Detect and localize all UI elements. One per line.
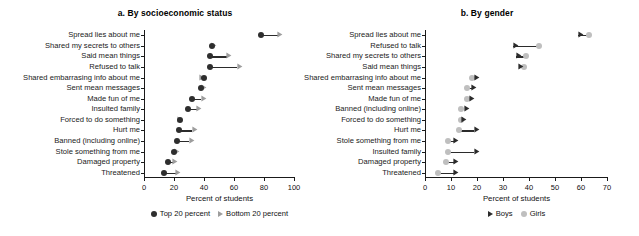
data-point-marker <box>454 159 459 165</box>
x-axis-tick-label: 10 <box>447 183 455 192</box>
y-axis-tick <box>422 35 425 36</box>
x-axis-tick <box>234 178 235 181</box>
legend-label-top-20-percent: Top 20 percent <box>160 209 210 218</box>
category-label: Stole something from me <box>56 148 140 156</box>
figure-root: a. By socioeconomic status Spread lies a… <box>0 0 639 236</box>
data-point-marker <box>226 53 231 59</box>
y-axis-tick <box>422 173 425 174</box>
category-label: Banned (including online) <box>335 105 421 113</box>
data-point-marker <box>461 116 466 122</box>
data-point-marker <box>237 63 242 69</box>
data-point-marker <box>445 138 451 144</box>
y-axis-tick <box>422 88 425 89</box>
x-axis-tick <box>477 178 478 181</box>
y-axis-tick <box>141 67 144 68</box>
x-axis-tick-label: 70 <box>603 183 611 192</box>
category-label: Said mean things <box>81 53 140 61</box>
category-label: Shared embarrasing info about me <box>23 74 140 82</box>
x-axis-tick <box>294 178 295 181</box>
y-axis-tick <box>141 88 144 89</box>
category-label: Insulted family <box>372 148 421 156</box>
legend-label-girls: Girls <box>530 209 546 218</box>
y-axis-tick <box>141 109 144 110</box>
x-axis-tick-label: 30 <box>499 183 507 192</box>
category-label: Forced to do something <box>341 116 421 124</box>
data-point-marker <box>185 106 191 112</box>
panel-b-category-labels: Spread lies about meRefused to talkShare… <box>300 30 421 178</box>
category-label: Sent mean messages <box>348 84 421 92</box>
legend-item-bottom-20-percent: Bottom 20 percent <box>218 209 288 218</box>
data-point-marker <box>472 85 477 91</box>
panel-a-x-axis <box>144 177 295 178</box>
x-axis-tick <box>144 178 145 181</box>
data-point-marker <box>196 106 201 112</box>
x-axis-tick-label: 80 <box>260 183 268 192</box>
x-axis-tick <box>425 178 426 181</box>
data-point-marker <box>474 127 479 133</box>
panel-a-legend: Top 20 percent Bottom 20 percent <box>144 209 295 218</box>
data-point-marker <box>198 85 204 91</box>
x-axis-tick-label: 0 <box>423 183 427 192</box>
data-point-marker <box>519 63 524 69</box>
data-point-marker <box>474 74 479 80</box>
y-axis-tick <box>422 152 425 153</box>
y-axis-tick <box>422 130 425 131</box>
data-point-marker <box>454 169 459 175</box>
y-axis-tick <box>141 162 144 163</box>
y-axis-tick <box>422 56 425 57</box>
panel-b-legend: Boys Girls <box>425 209 608 218</box>
data-point-marker <box>469 95 474 101</box>
y-axis-tick <box>422 162 425 163</box>
data-point-marker <box>443 159 449 165</box>
y-axis-tick <box>141 99 144 100</box>
category-label: Insulted family <box>91 105 140 113</box>
x-axis-tick-label: 20 <box>170 183 178 192</box>
category-label: Said mean things <box>362 63 421 71</box>
x-axis-tick-label: 40 <box>525 183 533 192</box>
arrow-marker-icon <box>488 211 493 217</box>
y-axis-tick <box>141 173 144 174</box>
x-axis-tick <box>503 178 504 181</box>
legend-item-girls: Girls <box>521 209 546 218</box>
legend-item-boys: Boys <box>488 209 513 218</box>
data-point-marker <box>445 149 451 155</box>
connector-line <box>448 152 474 153</box>
y-axis-tick <box>141 35 144 36</box>
panel-a-y-axis <box>144 30 145 178</box>
legend-label-boys: Boys <box>496 209 513 218</box>
x-axis-tick <box>451 178 452 181</box>
panel-a-category-labels: Spread lies about meShared my secrets to… <box>0 30 140 178</box>
x-axis-tick-label: 60 <box>577 183 585 192</box>
data-point-marker <box>172 159 177 165</box>
y-axis-tick <box>422 67 425 68</box>
data-point-marker <box>454 137 459 143</box>
data-point-marker <box>513 42 518 48</box>
category-label: Stole something from me <box>337 137 421 145</box>
x-axis-tick-label: 0 <box>142 183 146 192</box>
legend-item-top-20-percent: Top 20 percent <box>151 209 210 218</box>
data-point-marker <box>464 85 470 91</box>
category-label: Damaged property <box>77 158 140 166</box>
data-point-marker <box>192 127 197 133</box>
category-label: Made fun of me <box>368 95 421 103</box>
y-axis-tick <box>141 130 144 131</box>
x-axis-tick <box>264 178 265 181</box>
data-point-marker <box>207 64 213 70</box>
data-point-marker <box>277 32 282 38</box>
data-point-marker <box>175 169 180 175</box>
data-point-marker <box>201 95 206 101</box>
data-point-marker <box>536 43 542 49</box>
data-point-marker <box>435 170 441 176</box>
x-axis-tick-label: 100 <box>288 183 301 192</box>
data-point-marker <box>207 53 213 59</box>
panel-b-y-axis <box>425 30 426 178</box>
y-axis-tick <box>422 78 425 79</box>
y-axis-tick <box>141 141 144 142</box>
y-axis-tick <box>141 78 144 79</box>
panel-a-x-axis-title: Percent of students <box>144 194 295 203</box>
y-axis-tick <box>141 152 144 153</box>
connector-line <box>210 67 237 68</box>
y-axis-tick <box>141 56 144 57</box>
category-label: Shared my secrets to others <box>326 53 421 61</box>
panel-b-plot-area: 010203040506070 <box>425 30 607 178</box>
